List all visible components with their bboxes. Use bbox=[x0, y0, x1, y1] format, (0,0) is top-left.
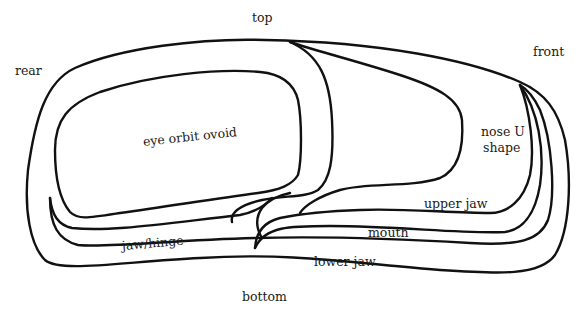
label-nose-u-line1: nose U bbox=[481, 126, 525, 139]
label-bottom: bottom bbox=[242, 291, 287, 304]
lower-jaw-line bbox=[50, 85, 552, 246]
upper-jaw-line bbox=[255, 85, 532, 248]
label-front: front bbox=[533, 46, 564, 59]
label-top: top bbox=[252, 12, 273, 25]
label-upper-jaw: upper jaw bbox=[424, 198, 487, 211]
jaw-hinge-upper-line bbox=[50, 198, 272, 229]
label-mouth: mouth bbox=[368, 227, 409, 240]
label-rear: rear bbox=[15, 65, 42, 78]
label-nose-u-line2: shape bbox=[483, 142, 520, 155]
skull-outline-diagram bbox=[0, 0, 583, 317]
nose-u-shape-line bbox=[290, 42, 462, 213]
mouth-line bbox=[255, 85, 542, 248]
label-lower-jaw: lower jaw bbox=[314, 256, 376, 269]
